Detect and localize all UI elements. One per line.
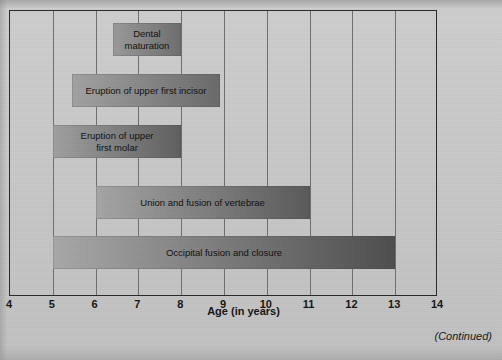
x-axis-title: Age (in years) (0, 305, 487, 317)
bar-label: Eruption of upperfirst molar (78, 130, 157, 153)
bar-label: Occipital fusion and closure (163, 247, 285, 259)
bar-0: Dentalmaturation (113, 23, 182, 56)
continued-note: (Continued) (435, 330, 492, 342)
bar-3: Union and fusion of vertebrae (96, 186, 310, 219)
scan-edge-bottom (0, 346, 502, 360)
bar-label: Union and fusion of vertebrae (137, 197, 268, 209)
figure-page: DentalmaturationEruption of upper first … (0, 0, 502, 360)
gridline-year-13 (395, 11, 396, 295)
bar-4: Occipital fusion and closure (53, 236, 395, 269)
bar-2: Eruption of upperfirst molar (53, 125, 181, 158)
scan-edge-top (0, 0, 502, 9)
bar-label: Dentalmaturation (121, 28, 172, 51)
bar-1: Eruption of upper first incisor (72, 74, 220, 107)
bar-label: Eruption of upper first incisor (82, 85, 209, 97)
chart-plot-area: DentalmaturationEruption of upper first … (9, 10, 437, 296)
